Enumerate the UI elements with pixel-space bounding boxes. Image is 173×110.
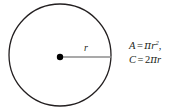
circumference-formula: C=2πr	[129, 52, 173, 66]
area-formula-punctuation: ,	[159, 40, 162, 51]
area-formula: A=πr2,	[129, 38, 173, 52]
circumference-formula-equals: =	[136, 54, 145, 65]
circumference-formula-variable: r	[157, 54, 161, 65]
area-formula-equals: =	[135, 40, 144, 51]
circumference-formula-lhs: C	[129, 54, 136, 65]
formula-block: A=πr2, C=2πr	[129, 38, 173, 66]
circle-figure: r A=πr2, C=2πr	[0, 0, 173, 110]
center-point-dot	[57, 54, 63, 60]
radius-label: r	[84, 43, 88, 53]
